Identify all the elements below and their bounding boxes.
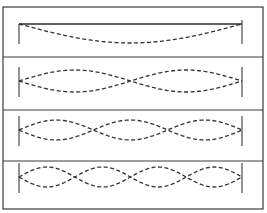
- wave-envelope-lower: [19, 167, 242, 187]
- wave-envelope: [19, 24, 242, 43]
- panel-mode-1: [19, 20, 242, 44]
- diagram-frame: [3, 7, 263, 209]
- wave-envelope-lower: [19, 120, 242, 140]
- standing-waves-diagram: [0, 0, 267, 213]
- wave-envelope-lower: [19, 70, 242, 92]
- wave-envelope-upper: [19, 120, 242, 140]
- panels: [3, 20, 263, 193]
- panel-mode-4: [3, 161, 263, 193]
- panel-mode-2: [3, 57, 263, 97]
- panel-mode-3: [3, 110, 263, 146]
